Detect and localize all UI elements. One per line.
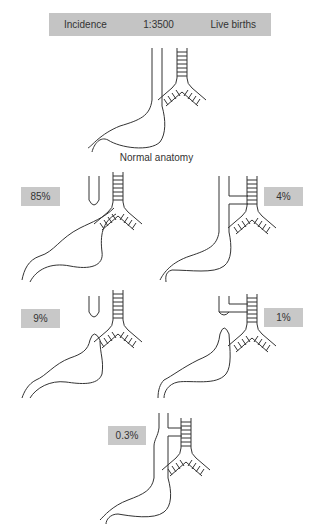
normal-anatomy-caption: Normal anatomy [0,152,313,163]
percent-label-variant-e: 0.3% [108,426,146,445]
percent-label-variant-c: 9% [21,309,60,328]
diagram-normal [88,48,206,152]
anatomy-diagrams [0,0,313,527]
percent-label-variant-d: 1% [264,308,303,327]
percent-label-variant-a: 85% [21,187,60,206]
diagram-variant-9 [22,290,142,398]
percent-label-variant-b: 4% [264,187,303,206]
diagram-variant-4 [160,176,276,282]
diagram-variant-1 [158,294,276,398]
